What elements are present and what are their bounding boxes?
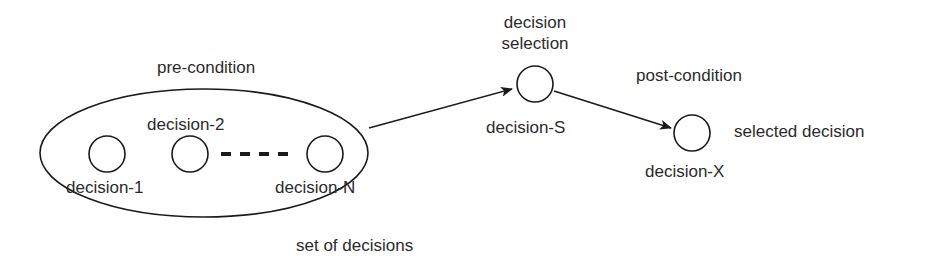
decision-1-label: decision-1	[66, 178, 144, 198]
decision-selection-label-line2: selection	[501, 34, 568, 54]
selected-decision-label: selected decision	[734, 122, 864, 142]
decision-2-node	[172, 136, 208, 172]
arrow-to-decision-x	[554, 91, 671, 128]
decision-n-label: decision-N	[275, 178, 355, 198]
post-condition-label: post-condition	[636, 66, 742, 86]
decision-1-node	[89, 136, 125, 172]
set-of-decisions-label: set of decisions	[296, 236, 413, 256]
decision-x-node	[674, 115, 710, 151]
decision-2-label: decision-2	[147, 115, 225, 135]
decision-s-node	[517, 66, 553, 102]
decision-s-label: decision-S	[486, 118, 565, 138]
decision-x-label: decision-X	[645, 162, 724, 182]
decision-n-node	[307, 136, 343, 172]
pre-condition-label: pre-condition	[157, 58, 255, 78]
decision-selection-label-line1: decision	[504, 13, 566, 33]
